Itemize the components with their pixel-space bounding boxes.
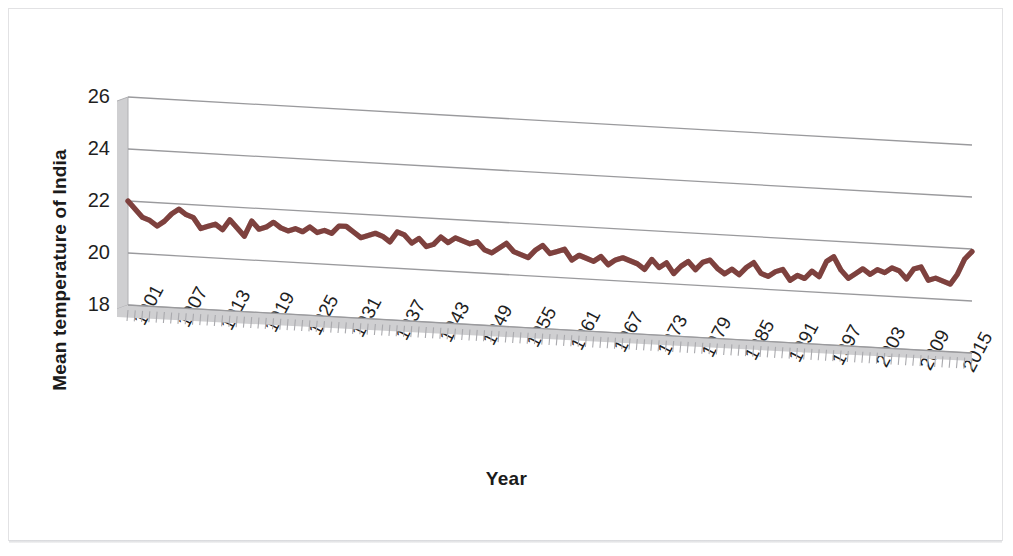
- data-series-line: [128, 201, 972, 284]
- plot-area: [0, 0, 1013, 556]
- data-series-group: [128, 201, 972, 284]
- gridline: [128, 305, 972, 353]
- gridline: [128, 149, 972, 197]
- x-axis-floor: [117, 305, 972, 361]
- chart-page: Mean temperature of India Year 182022242…: [0, 0, 1013, 556]
- gridline: [128, 97, 972, 145]
